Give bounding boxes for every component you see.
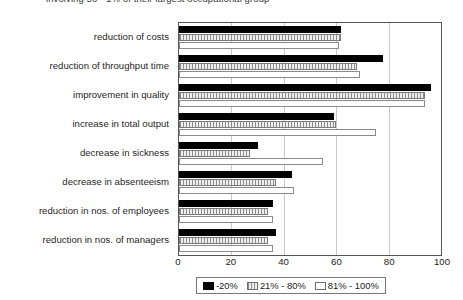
category-label: reduction in nos. of managers	[0, 225, 174, 254]
bar[interactable]	[179, 171, 292, 178]
bar-chart: involving 50 - 1% of their largest occup…	[0, 0, 463, 300]
bar-group	[179, 139, 441, 168]
category-label: reduction of throughput time	[0, 51, 174, 80]
bar[interactable]	[179, 92, 425, 99]
bar-group	[179, 168, 441, 197]
bar-groups	[179, 23, 441, 255]
bar[interactable]	[179, 71, 360, 78]
category-axis-labels: reduction of costs reduction of throughp…	[0, 22, 174, 254]
category-label: decrease in absenteeism	[0, 167, 174, 196]
bar[interactable]	[179, 179, 276, 186]
category-label: reduction in nos. of employees	[0, 196, 174, 225]
bar[interactable]	[179, 158, 323, 165]
axis-tick-label: 0	[175, 256, 180, 267]
bar[interactable]	[179, 84, 431, 91]
bar[interactable]	[179, 63, 357, 70]
bar[interactable]	[179, 100, 425, 107]
white-square-icon	[315, 282, 326, 290]
chart-caption: involving 50 - 1% of their largest occup…	[46, 0, 446, 5]
bar[interactable]	[179, 113, 334, 120]
axis-tick-label: 100	[434, 256, 450, 267]
bar-group	[179, 23, 441, 52]
hatched-square-icon	[247, 282, 258, 290]
legend-item[interactable]: 21% - 80%	[247, 280, 306, 291]
legend-label: 81% - 100%	[328, 280, 379, 291]
bar[interactable]	[179, 142, 258, 149]
bar-group	[179, 197, 441, 226]
bar-group	[179, 52, 441, 81]
bar[interactable]	[179, 245, 273, 252]
bar[interactable]	[179, 229, 276, 236]
bar[interactable]	[179, 187, 294, 194]
bar[interactable]	[179, 208, 268, 215]
axis-tick-label: 20	[225, 256, 236, 267]
bar[interactable]	[179, 121, 336, 128]
legend-item[interactable]: 81% - 100%	[315, 280, 379, 291]
category-label: increase in total output	[0, 109, 174, 138]
bar[interactable]	[179, 34, 341, 41]
chart-legend: -20% 21% - 80% 81% - 100%	[196, 277, 386, 294]
legend-label: -20%	[216, 280, 238, 291]
bar[interactable]	[179, 55, 383, 62]
category-label: improvement in quality	[0, 80, 174, 109]
plot-area	[178, 22, 442, 256]
bar[interactable]	[179, 26, 341, 33]
value-axis-labels: 020406080100	[178, 256, 442, 272]
bar[interactable]	[179, 216, 273, 223]
axis-tick-label: 80	[384, 256, 395, 267]
legend-item[interactable]: -20%	[203, 280, 238, 291]
bar-group	[179, 226, 441, 255]
category-label: decrease in sickness	[0, 138, 174, 167]
bar[interactable]	[179, 129, 376, 136]
bar[interactable]	[179, 42, 339, 49]
axis-tick-label: 60	[331, 256, 342, 267]
legend-label: 21% - 80%	[260, 280, 306, 291]
bar-group	[179, 110, 441, 139]
bar-group	[179, 81, 441, 110]
bar[interactable]	[179, 200, 273, 207]
category-label: reduction of costs	[0, 22, 174, 51]
axis-tick-label: 40	[278, 256, 289, 267]
bar[interactable]	[179, 237, 268, 244]
bar[interactable]	[179, 150, 250, 157]
black-square-icon	[203, 282, 214, 290]
